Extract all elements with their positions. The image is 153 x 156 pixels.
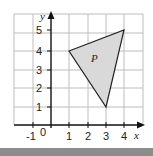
y-tick-1: 1 [36,101,42,113]
shape-label: P [90,52,98,64]
triangle-p [69,30,124,107]
grid-svg: y x P 5 4 3 2 1 -1 0 1 2 3 4 [0,0,153,156]
y-axis-label: y [39,10,45,22]
coordinate-grid-figure: y x P 5 4 3 2 1 -1 0 1 2 3 4 [0,0,153,156]
y-tick-4: 4 [36,45,42,57]
x-tick-neg1: -1 [26,130,36,142]
x-axis-arrow-icon [137,122,145,129]
y-axis-arrow-icon [48,11,55,19]
x-tick-0: 0 [40,126,46,138]
x-axis-label: x [133,129,139,141]
y-tick-5: 5 [36,24,42,36]
x-tick-1: 1 [66,130,72,142]
x-tick-2: 2 [85,130,91,142]
bottom-bar [0,148,153,156]
y-tick-3: 3 [36,64,42,76]
x-tick-4: 4 [121,130,127,142]
y-tick-2: 2 [36,82,42,94]
x-tick-3: 3 [103,130,109,142]
